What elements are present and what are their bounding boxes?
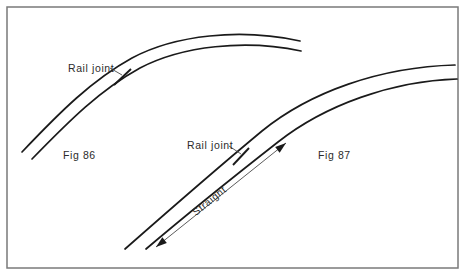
fig-86-caption: Fig 86 [63,149,96,161]
fig-87-rail-joint-label: Rail joint [187,139,233,151]
fig-87-caption: Fig 87 [318,149,351,161]
fig-86-rail-joint-label: Rail joint [68,62,114,74]
fig-87-outer-rail-line [125,65,455,249]
fig-87-group: Rail joint Fig 87 [125,65,457,249]
fig-86-group: Rail joint Fig 86 [22,35,301,161]
straight-dimension-group: Straight [156,143,286,247]
railway-curve-diagram-figure: Rail joint Fig 86 Rail joint Fig 87 Stra… [0,0,476,278]
diagram-canvas: Rail joint Fig 86 Rail joint Fig 87 Stra… [0,0,476,278]
straight-dimension-label: Straight [190,184,228,218]
straight-arrowhead-end-icon [275,143,286,153]
